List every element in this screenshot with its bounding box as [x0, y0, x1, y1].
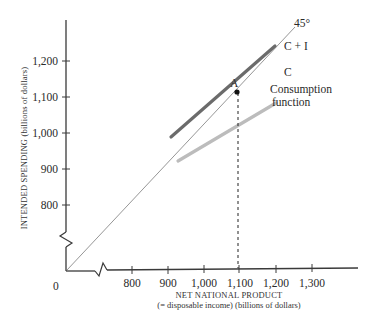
keynesian-cross-chart: A 45° C + I C Consumption function 0 1,2…: [0, 0, 375, 322]
label-45-degree: 45°: [294, 17, 311, 29]
y-axis-break-icon: [60, 232, 72, 247]
label-c-plus-i: C + I: [284, 40, 308, 52]
y-tick-label: 1,100: [32, 91, 58, 104]
label-consumption-1: Consumption: [270, 83, 332, 96]
line-c-plus-i: [171, 46, 275, 137]
x-tick-label: 800: [123, 277, 141, 289]
label-c: C: [284, 66, 292, 78]
x-tick-label: 1,000: [191, 277, 217, 290]
y-tick-label: 1,200: [32, 55, 58, 68]
y-tick-label: 1,000: [32, 127, 58, 140]
point-a-marker: [234, 89, 239, 94]
line-45-degree: [67, 27, 295, 270]
x-tick-label: 900: [159, 277, 177, 289]
y-axis: [60, 20, 72, 271]
line-consumption: [178, 103, 276, 161]
y-axis-title: INTENDED SPENDING (billions of dollars): [19, 67, 29, 230]
x-tick-label: 1,200: [263, 277, 289, 290]
y-tick-label: 800: [41, 199, 59, 211]
y-tick-label: 900: [41, 163, 59, 175]
x-axis: [66, 263, 358, 276]
label-consumption-2: function: [272, 96, 311, 108]
x-axis-subtitle: (= disposable income) (billions of dolla…: [157, 300, 301, 310]
x-axis-break-icon: [95, 263, 107, 276]
origin-label: 0: [53, 280, 59, 292]
x-axis-title: NET NATIONAL PRODUCT: [176, 290, 284, 300]
x-tick-label: 1,300: [299, 277, 325, 290]
point-a-label: A: [230, 77, 239, 89]
x-tick-label: 1,100: [227, 277, 253, 290]
